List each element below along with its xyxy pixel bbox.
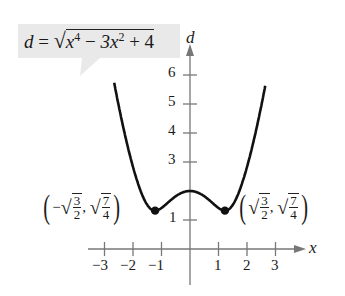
close-paren: ) [114, 190, 121, 224]
radical-icon: √ [61, 197, 72, 217]
eq-op1: − [85, 31, 96, 52]
denominator: 2 [261, 208, 268, 221]
eq-exp1: 4 [74, 30, 80, 44]
numerator: 3 [260, 194, 269, 208]
numerator: 7 [102, 194, 111, 208]
open-paren: ( [239, 190, 246, 224]
minimum-point [221, 206, 229, 214]
y-tick-label-4: 4 [168, 123, 176, 138]
equation-label: d = √x4 − 3x2 + 4 [24, 30, 154, 53]
radicand: 32 [259, 193, 270, 221]
radicand: 74 [288, 193, 299, 221]
y-tick-label-5: 5 [168, 94, 176, 109]
right-minimum-label: ( √32 , √74 ) [237, 190, 310, 224]
radical-icon: √ [277, 197, 288, 217]
open-paren: ( [43, 190, 50, 224]
denominator: 2 [74, 208, 81, 221]
eq-sign: = [38, 31, 49, 52]
x-tick-label-2: 2 [243, 258, 251, 273]
radical-icon: √ [54, 28, 66, 53]
numerator: 7 [289, 194, 298, 208]
eq-op2: + [129, 31, 140, 52]
eq-const: 4 [145, 31, 155, 52]
minimum-point [151, 206, 159, 214]
radicand: x4 − 3x2 + 4 [66, 29, 154, 52]
eq-lhs: d [24, 31, 34, 52]
left-minimum-label: ( − √32 , √74 ) [41, 190, 123, 224]
eq-term1: x [66, 31, 74, 52]
fraction: 32 [260, 194, 269, 221]
fraction: 32 [73, 194, 82, 221]
denominator: 4 [103, 208, 110, 221]
comma: , [270, 199, 274, 216]
radicand: 74 [101, 193, 112, 221]
y-tick-label-1: 1 [169, 210, 177, 225]
denominator: 4 [290, 208, 297, 221]
axes [88, 44, 306, 285]
radicand: 32 [72, 193, 83, 221]
x-tick-label-1: 1 [214, 258, 222, 273]
radical-icon: √ [248, 197, 259, 217]
numerator: 3 [73, 194, 82, 208]
minus-sign: − [52, 199, 60, 216]
x-tick-label-neg1: −1 [148, 258, 164, 273]
y-axis-label: d [186, 30, 195, 45]
y-tick-label-3: 3 [168, 152, 176, 167]
eq-exp2: 2 [118, 30, 124, 44]
x-axis-label: x [309, 240, 317, 255]
x-tick-label-neg3: −3 [92, 258, 108, 273]
comma: , [82, 199, 86, 216]
x-tick-label-3: 3 [271, 258, 279, 273]
equation-label-pointer [80, 58, 100, 76]
y-tick-label-6: 6 [168, 65, 176, 80]
x-tick-label-neg2: −2 [120, 258, 136, 273]
fraction: 74 [289, 194, 298, 221]
radical-icon: √ [90, 197, 101, 217]
fraction: 74 [102, 194, 111, 221]
eq-term2: 3x [100, 31, 118, 52]
close-paren: ) [301, 190, 308, 224]
